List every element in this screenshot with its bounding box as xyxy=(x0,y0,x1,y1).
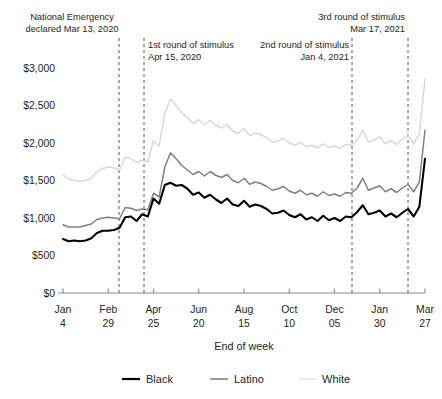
annotation-text-third-stimulus: 3rd round of stimulus xyxy=(318,12,405,22)
y-axis-tick-label: $500 xyxy=(32,250,55,261)
x-axis-tick-label-month: Dec xyxy=(325,304,343,315)
legend-label-white: White xyxy=(322,373,350,385)
y-axis-tick-labels: $0$500$1,000$1,500$2,000$2,500$3,000 xyxy=(23,63,55,299)
series-line-white xyxy=(63,79,425,181)
x-axis xyxy=(58,289,425,294)
series-line-latino xyxy=(63,130,425,227)
y-axis-tick-label: $2,000 xyxy=(23,138,55,149)
series-line-black xyxy=(63,159,425,242)
x-axis-tick-label-day: 05 xyxy=(329,318,341,329)
annotation-labels: National Emergencydeclared Mar 13, 20201… xyxy=(25,12,405,62)
x-axis-tick-label-month: Jan xyxy=(371,304,388,315)
annotation-text-second-stimulus: Jan 4, 2021 xyxy=(300,52,349,62)
x-axis-tick-label-day: 30 xyxy=(374,318,386,329)
x-axis-tick-label-month: Jun xyxy=(190,304,207,315)
x-axis-tick-label-month: Jan xyxy=(55,304,72,315)
annotation-text-national-emergency: National Emergency xyxy=(30,12,114,22)
x-axis-tick-label-month: Feb xyxy=(99,304,117,315)
x-axis-tick-label-day: 27 xyxy=(419,318,431,329)
annotation-text-first-stimulus: 1st round of stimulus xyxy=(148,40,234,50)
x-axis-tick-label-day: 25 xyxy=(148,318,160,329)
chart-legend: BlackLatinoWhite xyxy=(122,373,350,385)
annotation-text-first-stimulus: Apr 15, 2020 xyxy=(148,52,201,62)
y-axis-tick-label: $2,500 xyxy=(23,100,55,111)
annotation-text-second-stimulus: 2nd round of stimulus xyxy=(260,40,349,50)
y-axis-tick-label: $3,000 xyxy=(23,63,55,74)
x-axis-tick-label-day: 4 xyxy=(60,318,66,329)
x-axis-tick-label-month: Apr xyxy=(145,304,162,315)
x-axis-tick-label-day: 15 xyxy=(238,318,250,329)
legend-label-black: Black xyxy=(146,373,173,385)
x-axis-tick-label-day: 10 xyxy=(283,318,295,329)
annotation-text-national-emergency: declared Mar 13, 2020 xyxy=(25,24,118,34)
annotation-vertical-lines xyxy=(119,38,408,293)
line-chart: National Emergencydeclared Mar 13, 20201… xyxy=(0,0,442,399)
x-axis-title: End of week xyxy=(214,340,274,352)
x-axis-tick-label-day: 20 xyxy=(193,318,205,329)
legend-label-latino: Latino xyxy=(234,373,264,385)
chart-container: National Emergencydeclared Mar 13, 20201… xyxy=(0,0,442,399)
data-series-lines xyxy=(63,79,425,241)
x-axis-tick-label-day: 29 xyxy=(102,318,114,329)
x-axis-tick-label-month: Mar xyxy=(416,304,434,315)
y-axis-tick-label: $1,500 xyxy=(23,175,55,186)
x-axis-tick-label-month: Aug xyxy=(235,304,254,315)
x-axis-tick-label-month: Oct xyxy=(281,304,297,315)
annotation-text-third-stimulus: Mar 17, 2021 xyxy=(350,24,405,34)
y-axis-tick-label: $1,000 xyxy=(23,213,55,224)
x-axis-tick-labels: Jan4Feb29Apr25Jun20Aug15Oct10Dec05Jan30M… xyxy=(55,304,435,329)
y-axis-tick-label: $0 xyxy=(43,288,55,299)
